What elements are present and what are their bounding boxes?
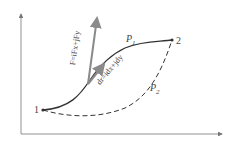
axes <box>21 14 222 134</box>
path-p1-sub: 1 <box>132 39 136 47</box>
point-2-dot <box>170 38 173 41</box>
point-1-dot <box>41 108 44 111</box>
point-1-label: 1 <box>34 105 39 115</box>
path-p2-sub: 2 <box>156 88 160 96</box>
point-2-label: 2 <box>176 36 181 46</box>
work-path-diagram: 1 2 P1 P2 F=iFx+jFy dr=idx+jdy <box>0 0 237 147</box>
path-p2-label: P2 <box>150 83 160 96</box>
diagram-graphics <box>0 0 237 147</box>
path-p1-label: P1 <box>126 34 136 47</box>
